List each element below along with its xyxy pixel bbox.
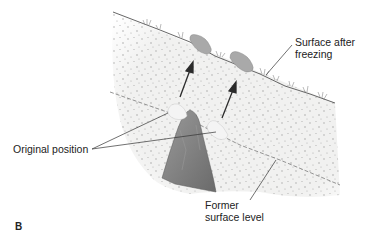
label-surface-after-freezing-line1: Surface after [295,36,355,48]
label-former-surface-level: Former surface level [205,199,264,223]
label-surface-after-freezing-line2: freezing [295,48,355,60]
label-surface-after-freezing: Surface after freezing [295,36,355,60]
panel-letter: B [15,221,22,232]
label-former-surface-line1: Former [205,199,264,211]
label-original-position: Original position [13,143,88,155]
label-former-surface-line2: surface level [205,211,264,223]
